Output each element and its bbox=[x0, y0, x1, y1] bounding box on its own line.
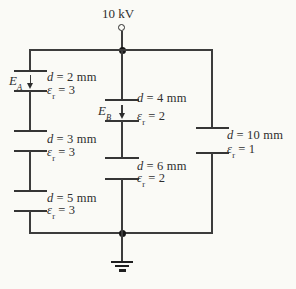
earth-ground-icon bbox=[111, 261, 133, 263]
cap-left-1-permittivity-label: εr= 3 bbox=[47, 84, 75, 97]
cap-middle-1-thickness-label: d= 4 mm bbox=[137, 92, 187, 105]
wire-middle-branch-2 bbox=[121, 121, 123, 158]
wire-ground bbox=[121, 233, 123, 262]
wire-left-branch-3 bbox=[29, 151, 31, 191]
open-terminal-icon bbox=[118, 24, 125, 31]
field-label-ea: EA bbox=[9, 74, 22, 87]
cap-right-1-thickness-label: d= 10 mm bbox=[227, 129, 283, 142]
cap-right-1-plate-top bbox=[196, 127, 229, 129]
cap-left-2-permittivity-label: εr= 3 bbox=[47, 146, 75, 159]
wire-right-branch-2 bbox=[211, 153, 213, 234]
circuit-diagram: 10 kV EA d= 2 mm εr= 3 d= 3 mm εr= 3 d= … bbox=[0, 0, 296, 289]
cap-left-2-plate-top bbox=[14, 130, 47, 132]
cap-middle-1-permittivity-label: εr= 2 bbox=[137, 110, 165, 123]
field-label-eb: EB bbox=[98, 104, 111, 117]
cap-left-3-plate-top bbox=[14, 190, 47, 192]
wire-middle-branch-1 bbox=[121, 50, 123, 100]
wire-right-branch-1 bbox=[211, 50, 213, 128]
supply-voltage-label: 10 kV bbox=[102, 7, 134, 20]
cap-middle-2-plate-top bbox=[105, 157, 139, 159]
cap-left-1-plate-top bbox=[14, 70, 47, 72]
field-arrow-eb-head bbox=[119, 113, 125, 119]
wire-left-branch-4 bbox=[29, 211, 31, 234]
cap-middle-1-plate-top bbox=[105, 99, 139, 101]
field-arrow-ea-head bbox=[27, 83, 33, 89]
cap-right-1-permittivity-label: εr= 1 bbox=[227, 143, 255, 156]
wire-middle-branch-3 bbox=[121, 179, 123, 234]
wire-left-branch-2 bbox=[29, 91, 31, 131]
earth-ground-icon bbox=[119, 269, 126, 271]
cap-middle-2-permittivity-label: εr= 2 bbox=[137, 172, 165, 185]
cap-left-3-permittivity-label: εr= 3 bbox=[47, 204, 75, 217]
wire-left-branch-1 bbox=[29, 50, 31, 71]
earth-ground-icon bbox=[115, 265, 129, 267]
